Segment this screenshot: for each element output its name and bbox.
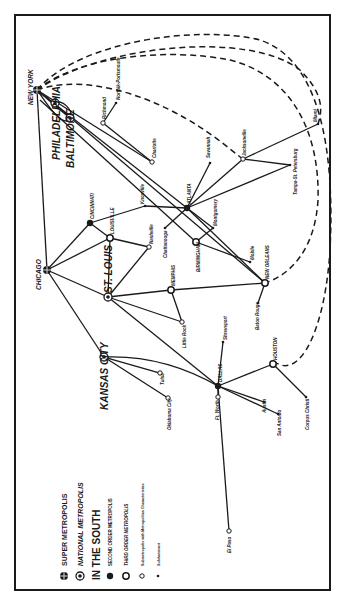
label-el-paso: El Paso	[227, 536, 232, 553]
label-baton-rouge: Baton Rouge	[255, 302, 260, 330]
label-knoxville: Knoxville	[140, 183, 145, 204]
label-norfolk: Norfolk-Portsmouth	[116, 57, 121, 100]
label-dallas: DALLAS	[218, 364, 223, 382]
label-baltimore: BALTIMORE	[65, 109, 76, 168]
label-corpus-christi: Corpus Christi	[305, 398, 310, 430]
label-mobile: Mobile	[250, 245, 255, 260]
label-austin: Austin	[262, 399, 267, 414]
label-tampa: Tampa-St. Petersburg	[293, 148, 298, 195]
label-little-rock: Little Rock	[182, 324, 187, 348]
label-chicago: CHICAGO	[35, 259, 42, 290]
legend-second-order: SECOND ORDER METROPOLIS	[107, 498, 113, 579]
label-cincinnati: CINCINNATI	[90, 193, 95, 219]
legend-super-metropolis: SUPER METROPOLIS	[60, 493, 68, 580]
label-nashville: Nashville	[149, 224, 154, 244]
legend-third-order: THIRD ORDER METROPOLIS	[123, 504, 129, 579]
label-shreveport: Shreveport	[223, 316, 228, 340]
legend: SUPER METROPOLIS NATIONAL METROPOLIS IN …	[60, 482, 161, 580]
legend-national-metropolis: NATIONAL METROPOLIS	[76, 482, 84, 580]
label-richmond: Richmond	[102, 97, 107, 119]
legend-super-metropolis-label: SUPER METROPOLIS	[61, 493, 68, 566]
label-miami: Miami	[313, 108, 318, 122]
label-tulsa: Tulsa	[160, 373, 165, 385]
label-montgomery: Montgomery	[213, 199, 218, 226]
label-new-york: NEW YORK	[27, 68, 34, 105]
label-savannah: Savannah	[206, 136, 211, 158]
legend-subdominant-label: Subdominant	[157, 542, 161, 566]
label-memphis: MEMPHIS	[171, 265, 176, 286]
label-birmingham: BIRMINGHAM	[196, 242, 201, 272]
label-jacksonville: Jacksonville	[242, 129, 247, 156]
legend-submetropolis: Submetropolis with Metropolitan Characte…	[140, 483, 145, 578]
label-oklahoma-city: Oklahoma City	[167, 398, 172, 430]
label-chattanooga: Chattanooga	[163, 230, 168, 258]
legend-subdominant: Subdominant	[157, 542, 161, 577]
label-ft-worth: Ft. Worth	[215, 400, 220, 420]
label-new-orleans: NEW ORLEANS	[265, 245, 270, 279]
legend-submetropolis-label: Submetropolis with Metropolitan Characte…	[141, 483, 145, 566]
metropolitan-hierarchy-diagram: NEW YORK PHILADELPHIA BALTIMORE CHICAGO …	[0, 0, 360, 603]
node-chicago	[43, 266, 51, 274]
label-louisville: LOUISVILLE	[110, 207, 115, 234]
node-new-york	[33, 86, 41, 94]
label-houston: HOUSTON	[273, 337, 278, 360]
legend-second-order-label: SECOND ORDER METROPOLIS	[108, 498, 113, 566]
label-st-louis: ST. LOUIS	[103, 245, 114, 293]
label-atlanta: ATLANTA	[187, 183, 192, 205]
legend-third-order-label: THIRD ORDER METROPOLIS	[124, 504, 129, 566]
label-charlotte: Charlotte	[152, 138, 157, 158]
label-san-antonio: San Antonio	[277, 409, 282, 436]
dashed-link-ny-neworleans	[37, 55, 318, 283]
solid-links	[37, 90, 318, 531]
legend-region-heading: IN THE SOUTH	[91, 509, 102, 580]
label-kansas-city: KANSAS CITY	[99, 341, 110, 410]
label-philadelphia: PHILADELPHIA	[51, 86, 62, 160]
legend-national-metropolis-label: NATIONAL METROPOLIS	[77, 482, 84, 566]
